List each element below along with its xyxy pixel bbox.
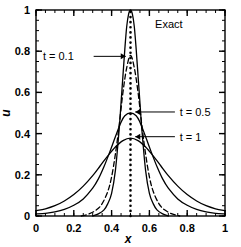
annotation-arrowhead <box>135 134 140 140</box>
x-tick-label: 0.8 <box>180 222 195 234</box>
annotation-group: Exactt = 0.1t = 0.5t = 1 <box>43 18 211 142</box>
y-tick-label: 1 <box>24 4 30 16</box>
x-tick-label: 1 <box>222 222 228 234</box>
annotation-label: Exact <box>155 18 183 30</box>
figure-container: Exactt = 0.1t = 0.5t = 1 00.20.40.60.81 … <box>0 0 241 247</box>
y-axis-label: u <box>0 109 13 117</box>
y-tick-labels: 00.20.40.60.81 <box>15 4 31 222</box>
y-tick-label: 0 <box>24 210 30 222</box>
x-axis-label: x <box>124 232 133 246</box>
y-tick-label: 0.4 <box>15 128 31 140</box>
y-tick-label: 0.2 <box>15 169 30 181</box>
x-tick-label: 0.6 <box>142 222 157 234</box>
annotation-label: t = 0.1 <box>43 50 74 62</box>
y-tick-label: 0.6 <box>15 86 30 98</box>
x-tick-label: 0.4 <box>104 222 120 234</box>
chart-plot: Exactt = 0.1t = 0.5t = 1 00.20.40.60.81 … <box>0 0 241 247</box>
y-tick-label: 0.8 <box>15 45 30 57</box>
annotation-label: t = 0.5 <box>180 106 211 118</box>
x-tick-label: 0.2 <box>66 222 81 234</box>
annotation-arrowhead <box>135 109 140 115</box>
annotation-label: t = 1 <box>180 131 202 143</box>
x-tick-label: 0 <box>33 222 39 234</box>
